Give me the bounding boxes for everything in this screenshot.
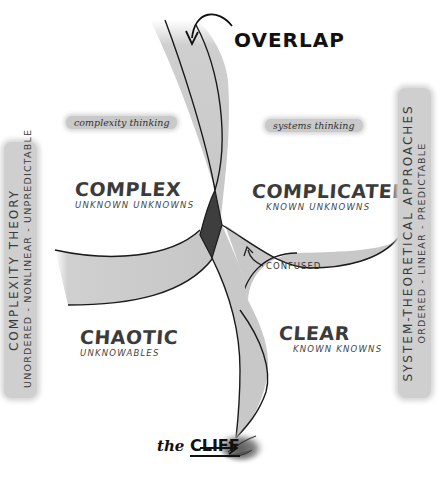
system-theoretical-traits: ORDERED - LINEAR - PREDICTABLE: [416, 98, 428, 388]
system-theoretical-band: SYSTEM-THEORETICAL APPROACHES ORDERED - …: [398, 88, 431, 398]
complex-title: COMPLEX: [74, 178, 195, 200]
complexity-theory-traits: UNORDERED - NONLINEAR - UNPREDICTABLE: [22, 152, 34, 388]
clear-title: CLEAR: [278, 322, 383, 344]
overlap-label: OVERLAP: [234, 28, 345, 52]
systems-thinking-tag: systems thinking: [265, 119, 363, 132]
cliff-label: the CLIFF: [157, 436, 240, 455]
chaotic-title: CHAOTIC: [79, 326, 179, 348]
cynefin-diagram: OVERLAP complexity thinking systems thin…: [0, 0, 443, 479]
cliff-prefix: the: [157, 437, 184, 455]
complicated-subtitle: KNOWN UNKNOWNS: [252, 202, 409, 212]
complexity-thinking-tag: complexity thinking: [66, 116, 177, 129]
chaotic-domain: CHAOTIC UNKNOWABLES: [80, 326, 178, 358]
chaotic-subtitle: UNKNOWABLES: [80, 348, 178, 358]
bottom-band: [212, 258, 268, 438]
cliff-word: CLIFF: [190, 436, 240, 457]
complicated-domain: COMPLICATED KNOWN UNKNOWNS: [252, 180, 409, 212]
complexity-theory-band: COMPLEXITY THEORY UNORDERED - NONLINEAR …: [4, 142, 37, 398]
clear-subtitle: KNOWN KNOWNS: [279, 344, 382, 354]
complexity-theory-title: COMPLEXITY THEORY: [7, 152, 22, 388]
confused-label: CONFUSED: [266, 261, 321, 271]
left-band: [55, 230, 213, 305]
complex-subtitle: UNKNOWN UNKNOWNS: [75, 200, 194, 210]
complex-domain: COMPLEX UNKNOWN UNKNOWNS: [75, 178, 194, 210]
diagram-lines: [0, 0, 443, 479]
complicated-title: COMPLICATED: [251, 180, 409, 202]
system-theoretical-title: SYSTEM-THEORETICAL APPROACHES: [401, 98, 416, 388]
clear-domain: CLEAR KNOWN KNOWNS: [279, 322, 382, 354]
